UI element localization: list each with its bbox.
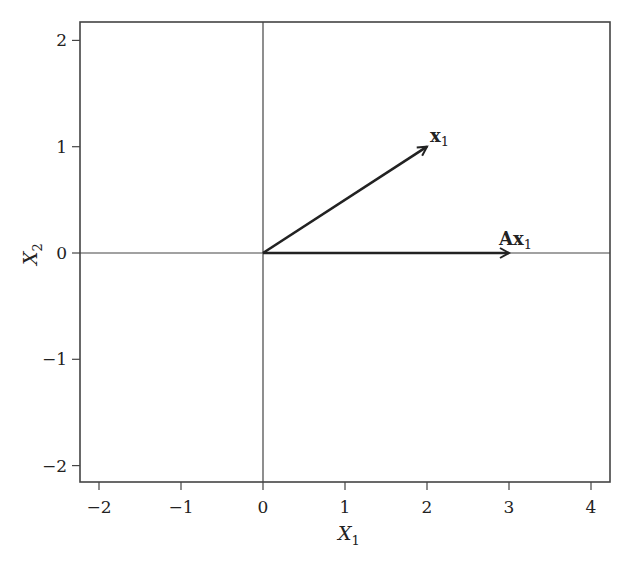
y-tick-label: 1 — [56, 137, 67, 157]
x-tick-label: −1 — [168, 497, 193, 517]
x-axis-label: X1 — [336, 522, 360, 548]
vector-label-x1: x1 — [430, 125, 449, 149]
x-tick-label: 2 — [422, 497, 433, 517]
x-tick-label: 1 — [340, 497, 351, 517]
chart: −2−101234−2−1012X1X2x1Ax1 — [0, 0, 630, 562]
y-tick-label: −1 — [42, 349, 67, 369]
x-tick-label: 0 — [258, 497, 269, 517]
y-tick-label: −2 — [42, 456, 67, 476]
vector-label-Ax1: Ax1 — [498, 228, 532, 252]
y-tick-label: 0 — [56, 243, 67, 263]
x-tick-label: −2 — [86, 497, 111, 517]
vector-x1 — [263, 147, 427, 253]
x-tick-label: 4 — [586, 497, 597, 517]
x-tick-label: 3 — [504, 497, 515, 517]
y-axis-label: X2 — [19, 243, 45, 267]
y-tick-label: 2 — [56, 30, 67, 50]
vector-plot: −2−101234−2−1012X1X2x1Ax1 — [0, 0, 630, 562]
